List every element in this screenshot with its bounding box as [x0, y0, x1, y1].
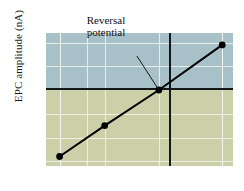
y-axis-label: EPC amplitude (nA) — [12, 0, 24, 126]
epc-amplitude-chart: EPC amplitude (nA) 2001000–100–200–300 –… — [0, 0, 244, 191]
plot-area: 2001000–100–200–300 –110–600+70 EKEClENa — [46, 33, 233, 166]
annotation-line-1: Reversal — [74, 14, 138, 26]
annotation-leader-line — [46, 33, 233, 166]
annotation-line-2: potential — [74, 26, 138, 38]
leader-line — [137, 56, 159, 90]
reversal-potential-annotation: Reversal potential — [74, 14, 138, 39]
